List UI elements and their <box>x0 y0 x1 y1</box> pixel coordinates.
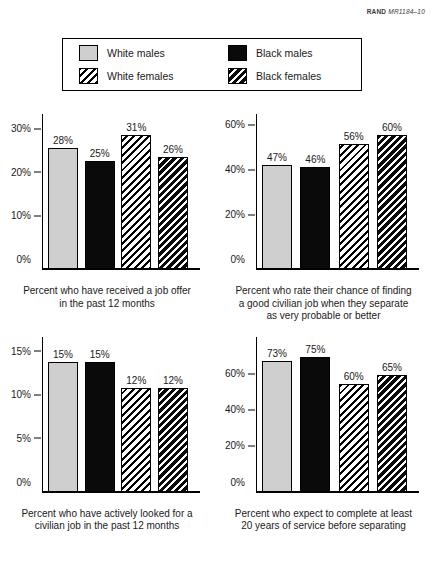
y-axis-line <box>256 337 257 493</box>
bar-series: 47%46%56%60% <box>256 122 413 270</box>
bar-white-males <box>262 165 292 270</box>
legend-label: Black males <box>256 47 313 59</box>
bar-value-label: 12% <box>163 375 183 386</box>
y-axis-tick-label: 20% <box>225 209 256 220</box>
x-axis-line <box>42 491 200 493</box>
black-males-swatch <box>228 45 247 61</box>
bar-chart-3: 0%5%10%15%15%15%12%12%Percent who have a… <box>0 323 214 533</box>
chart-caption: Percent who have received a job offerin … <box>0 282 214 310</box>
bar-value-label: 46% <box>305 154 325 165</box>
caption-line: as very probable or better <box>222 310 425 323</box>
bar-black-females <box>158 157 188 270</box>
bar-black-females <box>158 388 188 492</box>
y-axis-tick-label: 10% <box>11 389 42 400</box>
bar-black-males <box>85 362 115 493</box>
bar-column: 15% <box>48 345 78 493</box>
y-axis-tick-label: 15% <box>11 345 42 356</box>
chart-caption: Percent who rate their chance of finding… <box>214 282 433 323</box>
plot-wrapper: 0%5%10%15%15%15%12%12% <box>0 323 208 505</box>
black-females-swatch <box>228 68 247 84</box>
y-axis-tick-label: 0% <box>231 254 256 265</box>
y-axis-tick-label: 20% <box>225 440 256 451</box>
legend-label: Black females <box>256 70 321 82</box>
bar-white-males <box>48 362 78 493</box>
legend-item-white-females: White females <box>63 68 212 84</box>
bar-column: 26% <box>158 122 188 270</box>
y-axis-tick-label: 60% <box>225 368 256 379</box>
bar-white-males <box>48 148 78 270</box>
bar-column: 25% <box>85 122 115 270</box>
bar-black-females <box>377 375 407 492</box>
y-axis-tick-label: 40% <box>225 404 256 415</box>
bar-value-label: 31% <box>126 122 146 133</box>
caption-line: Percent who have received a job offer <box>8 285 206 298</box>
caption-line: a good civilian job when they separate <box>222 298 425 311</box>
y-axis-tick-label: 30% <box>11 123 42 134</box>
bar-column: 28% <box>48 122 78 270</box>
bar-series: 73%75%60%65% <box>256 345 413 493</box>
bar-value-label: 75% <box>305 344 325 355</box>
y-axis-line <box>42 337 43 493</box>
bar-column: 15% <box>85 345 115 493</box>
bar-black-males <box>85 161 115 270</box>
caption-line: Percent who rate their chance of finding <box>222 285 425 298</box>
white-males-swatch <box>79 45 98 61</box>
bar-value-label: 26% <box>163 144 183 155</box>
legend-label: White males <box>107 47 165 59</box>
publisher-label: RAND <box>367 8 387 15</box>
y-axis-tick-label: 0% <box>231 476 256 487</box>
x-axis-line <box>256 268 419 270</box>
document-code-label: MR1184–10 <box>388 8 425 15</box>
caption-line: Percent who expect to complete at least <box>222 508 425 521</box>
bar-white-females <box>121 388 151 492</box>
bar-value-label: 15% <box>53 349 73 360</box>
bar-value-label: 25% <box>90 148 110 159</box>
y-axis-tick-label: 20% <box>11 166 42 177</box>
bar-white-females <box>121 135 151 270</box>
x-axis-line <box>42 268 200 270</box>
bar-value-label: 47% <box>267 152 287 163</box>
caption-line: in the past 12 months <box>8 298 206 311</box>
white-females-swatch <box>79 68 98 84</box>
bar-column: 73% <box>262 345 292 493</box>
plot-area: 0%20%40%60%47%46%56%60% <box>256 122 413 270</box>
y-axis-tick-label: 0% <box>17 476 42 487</box>
caption-line: Percent who have actively looked for a <box>8 508 206 521</box>
plot-area: 0%5%10%15%15%15%12%12% <box>42 345 194 493</box>
y-axis-tick-label: 60% <box>225 119 256 130</box>
plot-wrapper: 0%10%20%30%28%25%31%26% <box>0 100 208 282</box>
bar-black-males <box>300 357 330 492</box>
document-header: RAND MR1184–10 <box>367 8 425 15</box>
legend-item-black-females: Black females <box>212 68 361 84</box>
bar-column: 46% <box>300 122 330 270</box>
bar-column: 60% <box>377 122 407 270</box>
bar-value-label: 73% <box>267 348 287 359</box>
plot-wrapper: 0%20%40%60%73%75%60%65% <box>214 323 427 505</box>
y-axis-tick-label: 0% <box>17 254 42 265</box>
bar-column: 12% <box>158 345 188 493</box>
bar-series: 15%15%12%12% <box>42 345 194 493</box>
bar-black-males <box>300 167 330 270</box>
bar-column: 12% <box>121 345 151 493</box>
bar-value-label: 60% <box>344 371 364 382</box>
bar-value-label: 60% <box>382 122 402 133</box>
bar-column: 31% <box>121 122 151 270</box>
chart-grid: 0%10%20%30%28%25%31%26%Percent who have … <box>0 100 433 533</box>
caption-line: 20 years of service before separating <box>222 520 425 533</box>
bar-chart-1: 0%10%20%30%28%25%31%26%Percent who have … <box>0 100 214 323</box>
plot-wrapper: 0%20%40%60%47%46%56%60% <box>214 100 427 282</box>
bar-series: 28%25%31%26% <box>42 122 194 270</box>
bar-column: 60% <box>339 345 369 493</box>
bar-white-females <box>339 144 369 270</box>
bar-column: 47% <box>262 122 292 270</box>
caption-line: civilian job in the past 12 months <box>8 520 206 533</box>
x-axis-line <box>256 491 419 493</box>
bar-value-label: 12% <box>126 375 146 386</box>
chart-caption: Percent who expect to complete at least2… <box>214 505 433 533</box>
bar-value-label: 65% <box>382 362 402 373</box>
chart-caption: Percent who have actively looked for aci… <box>0 505 214 533</box>
y-axis-line <box>256 114 257 270</box>
bar-value-label: 28% <box>53 135 73 146</box>
bar-white-females <box>339 384 369 492</box>
bar-column: 75% <box>300 345 330 493</box>
